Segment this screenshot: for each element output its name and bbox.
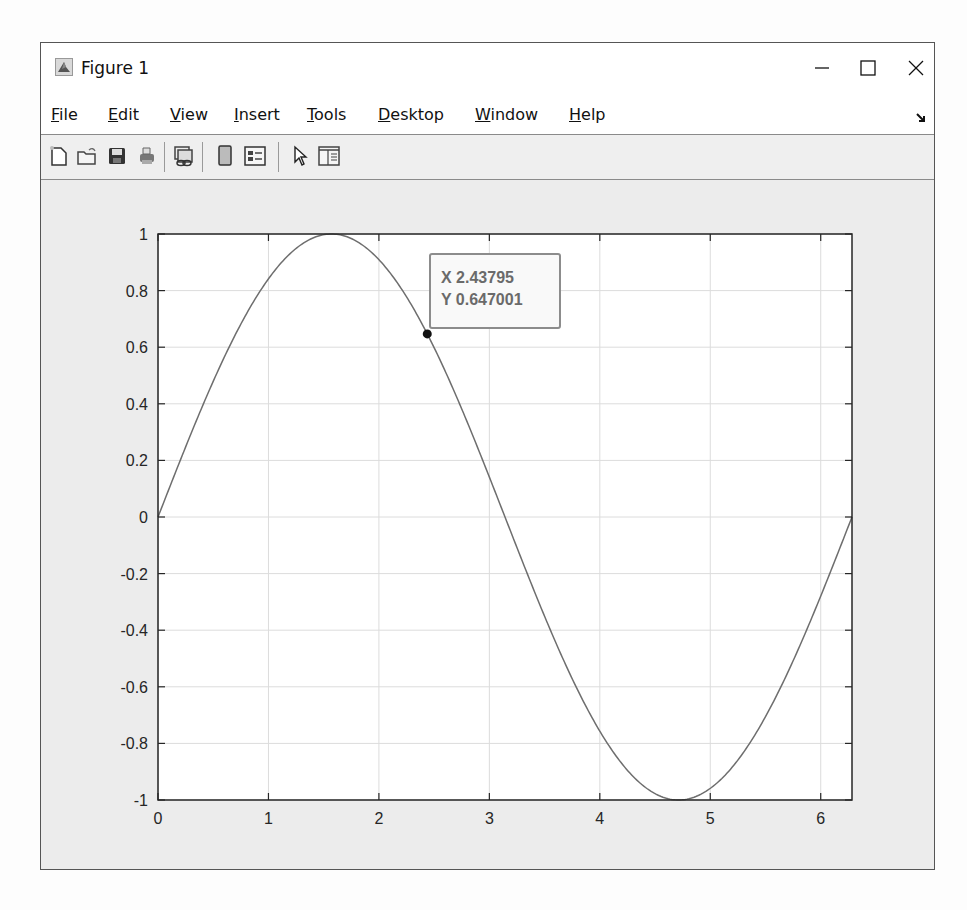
datatip[interactable]: X 2.43795 Y 0.647001 — [429, 253, 561, 329]
x-tick-label: 4 — [595, 810, 604, 827]
y-tick-label: -0.6 — [120, 679, 148, 696]
x-tick-label: 1 — [264, 810, 273, 827]
y-tick-label: -1 — [134, 792, 148, 809]
y-tick-label: 0.2 — [126, 452, 148, 469]
datatip-marker — [423, 329, 432, 338]
y-tick-label: 0.8 — [126, 283, 148, 300]
x-tick-label: 3 — [485, 810, 494, 827]
y-tick-label: 1 — [139, 226, 148, 243]
figure-canvas[interactable]: 012345610.80.60.40.20-0.2-0.4-0.6-0.8-1 … — [41, 180, 934, 869]
sine-plot: 012345610.80.60.40.20-0.2-0.4-0.6-0.8-1 — [1, 1, 967, 910]
figure-window: Figure 1 File Edit View Insert Tools Des… — [40, 42, 935, 870]
y-tick-label: 0.4 — [126, 396, 148, 413]
y-tick-label: 0.6 — [126, 339, 148, 356]
datatip-y: Y 0.647001 — [441, 289, 559, 311]
x-tick-label: 6 — [816, 810, 825, 827]
datatip-x: X 2.43795 — [441, 267, 559, 289]
x-tick-label: 2 — [374, 810, 383, 827]
y-tick-label: -0.4 — [120, 622, 148, 639]
y-tick-label: -0.8 — [120, 735, 148, 752]
x-tick-label: 0 — [154, 810, 163, 827]
y-tick-label: 0 — [139, 509, 148, 526]
x-tick-label: 5 — [706, 810, 715, 827]
y-tick-label: -0.2 — [120, 566, 148, 583]
